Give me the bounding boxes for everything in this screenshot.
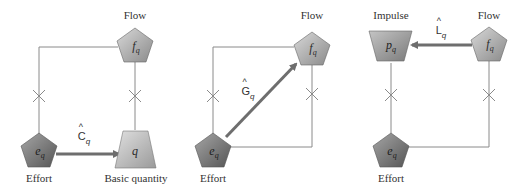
operator-subscript: q xyxy=(442,31,446,40)
impulse-symbol-subscript: q xyxy=(392,45,396,54)
operator-subscript: q xyxy=(86,137,90,146)
effort-label: Effort xyxy=(200,172,226,184)
flow-label: Flow xyxy=(301,9,324,21)
quantity-symbol: q xyxy=(132,144,138,159)
connector-line xyxy=(230,60,312,147)
flow-label: Flow xyxy=(478,9,501,21)
flow-symbol: fq xyxy=(309,41,316,57)
connector-line xyxy=(408,60,489,147)
effort-label: Effort xyxy=(378,172,404,184)
capacitance-operator: ^Cq xyxy=(78,130,90,145)
effort-symbol-subscript: q xyxy=(393,151,397,160)
flow-label: Flow xyxy=(124,9,147,21)
flow-symbol-subscript: q xyxy=(490,44,494,53)
operator-subscript: q xyxy=(250,92,254,101)
operator-hat: ^ xyxy=(242,77,246,87)
operator-hat: ^ xyxy=(79,122,83,132)
effort-symbol: eq xyxy=(209,144,218,160)
impulse-symbol: pq xyxy=(386,38,396,54)
effort-label: Effort xyxy=(26,172,52,184)
flow-symbol: fq xyxy=(132,39,139,55)
inductance-operator: ^Lq xyxy=(436,24,447,39)
basic-quantity-label: Basic quantity xyxy=(104,172,167,184)
operator-arrow xyxy=(226,64,296,137)
effort-symbol-subscript: q xyxy=(215,151,219,160)
quantity-symbol-letter: q xyxy=(132,144,138,158)
diagram-canvas xyxy=(0,0,528,192)
effort-symbol-subscript: q xyxy=(41,151,45,160)
effort-symbol: eq xyxy=(387,144,396,160)
flow-symbol-subscript: q xyxy=(136,46,140,55)
flow-symbol-subscript: q xyxy=(313,48,317,57)
impulse-label: Impulse xyxy=(373,9,408,21)
flow-symbol: fq xyxy=(486,37,493,53)
conductance-operator: ^Gq xyxy=(241,85,254,100)
operator-hat: ^ xyxy=(437,16,441,26)
diagram-stage: Flow fq eq q ^Cq Effort Basic quantity F… xyxy=(0,0,528,192)
effort-symbol: eq xyxy=(35,144,44,160)
